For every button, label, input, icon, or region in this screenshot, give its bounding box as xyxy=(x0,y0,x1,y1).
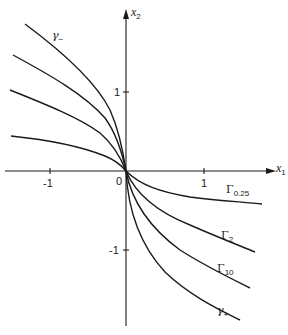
label-Gamma-2-base: Γ xyxy=(221,229,229,242)
label-gamma-plus: γ+ xyxy=(217,305,228,316)
x1-axis-label-sub: 1 xyxy=(281,168,285,177)
y-tick-label-1: 1 xyxy=(114,87,120,98)
y-tick-label-neg1: -1 xyxy=(109,245,119,256)
label-gamma-minus: γ− xyxy=(52,30,63,41)
label-Gamma-2-sub: 2 xyxy=(229,235,233,244)
x1-axis-arrow-icon xyxy=(266,168,276,174)
label-Gamma-10-sub: 10 xyxy=(225,268,234,277)
x2-axis-arrow-icon xyxy=(123,9,129,19)
label-gamma-minus-base: γ xyxy=(52,29,59,42)
diagram-canvas xyxy=(0,0,288,335)
x-tick-label-1: 1 xyxy=(201,178,207,189)
x-tick-label-neg1: -1 xyxy=(43,178,53,189)
label-Gamma-2: Γ2 xyxy=(221,230,233,241)
curve-left-2 xyxy=(13,55,126,171)
x2-axis-label-sub: 2 xyxy=(136,12,140,21)
curve-gamma-plus xyxy=(126,171,240,320)
label-Gamma-0.25-sub: 0.25 xyxy=(234,189,250,198)
curve-left-3 xyxy=(10,90,126,171)
label-Gamma-10-base: Γ xyxy=(217,262,225,275)
x1-axis-label: x1 xyxy=(276,162,286,174)
label-Gamma-0.25: Γ0.25 xyxy=(226,184,249,195)
label-gamma-plus-sub: + xyxy=(224,310,229,319)
label-gamma-minus-sub: − xyxy=(59,35,64,44)
curve-gamma-minus xyxy=(25,24,126,171)
label-Gamma-10: Γ10 xyxy=(217,263,234,274)
label-gamma-plus-base: γ xyxy=(217,304,224,317)
label-Gamma-0.25-base: Γ xyxy=(226,183,234,196)
origin-label: 0 xyxy=(116,176,122,187)
x2-axis-label: x2 xyxy=(131,6,141,18)
